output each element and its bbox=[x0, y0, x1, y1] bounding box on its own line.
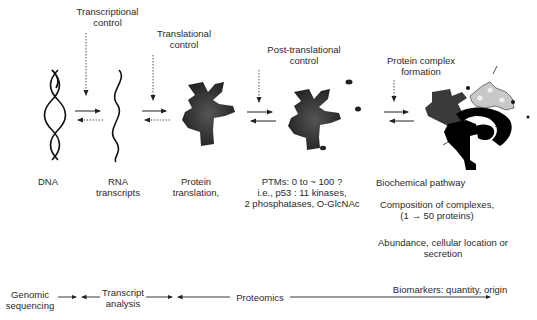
abundance-label: Abundance, cellular location or secretio… bbox=[372, 237, 514, 259]
rna-strand-icon bbox=[113, 70, 122, 162]
label-line: transcripts bbox=[90, 187, 146, 198]
protein-translation-label: Protein translation, bbox=[168, 176, 224, 198]
modified-protein-icon bbox=[288, 80, 361, 151]
label-line: Translational bbox=[144, 28, 224, 39]
post-translational-control-label: Post-translational control bbox=[254, 44, 354, 66]
label-line: Protein complex bbox=[380, 55, 462, 66]
proteomics-label: Proteomics bbox=[232, 292, 288, 303]
label-line: formation bbox=[380, 66, 462, 77]
label-line: Protein bbox=[168, 176, 224, 187]
genomic-sequencing-label: Genomic sequencing bbox=[2, 289, 58, 311]
label-line: translation, bbox=[168, 187, 224, 198]
label-line: control bbox=[144, 39, 224, 50]
label-line: analysis bbox=[100, 298, 146, 309]
label-line: Transcriptional bbox=[60, 6, 155, 17]
translational-control-label: Translational control bbox=[144, 28, 224, 50]
ptm-notes: PTMs: 0 to ~ 100 ? i.e., p53 : 11 kinase… bbox=[242, 176, 362, 209]
label-line: control bbox=[254, 55, 354, 66]
label-line: control bbox=[60, 17, 155, 28]
label-line: Genomic bbox=[2, 289, 58, 300]
label-line: Composition of complexes, bbox=[372, 199, 502, 210]
label-line: i.e., p53 : 11 kinases, bbox=[242, 187, 362, 198]
label-line: Post-translational bbox=[254, 44, 354, 55]
biochemical-pathway-label: Biochemical pathway bbox=[376, 177, 465, 188]
biomarkers-label: Biomarkers: quantity, origin bbox=[388, 284, 512, 295]
label-line: (1 → 50 proteins) bbox=[372, 210, 502, 221]
label-line: PTMs: 0 to ~ 100 ? bbox=[242, 176, 362, 187]
protein-complex-formation-label: Protein complex formation bbox=[380, 55, 462, 77]
label-line: Transcript bbox=[100, 287, 146, 298]
transcript-analysis-label: Transcript analysis bbox=[100, 287, 146, 309]
protein-shape-icon bbox=[182, 82, 235, 146]
protein-complex-icon bbox=[425, 66, 530, 170]
transcriptional-control-label: Transcriptional control bbox=[60, 6, 155, 28]
dna-helix-icon bbox=[45, 70, 66, 160]
rna-transcripts-label: RNA transcripts bbox=[90, 176, 146, 198]
label-line: secretion bbox=[372, 248, 514, 259]
label-line: DNA bbox=[30, 176, 66, 187]
label-line: sequencing bbox=[2, 300, 58, 311]
label-line: RNA bbox=[90, 176, 146, 187]
dna-label: DNA bbox=[30, 176, 66, 187]
label-line: Abundance, cellular location or bbox=[372, 237, 514, 248]
composition-of-complexes-label: Composition of complexes, (1 → 50 protei… bbox=[372, 199, 502, 221]
label-line: 2 phosphatases, O-GlcNAc bbox=[242, 198, 362, 209]
